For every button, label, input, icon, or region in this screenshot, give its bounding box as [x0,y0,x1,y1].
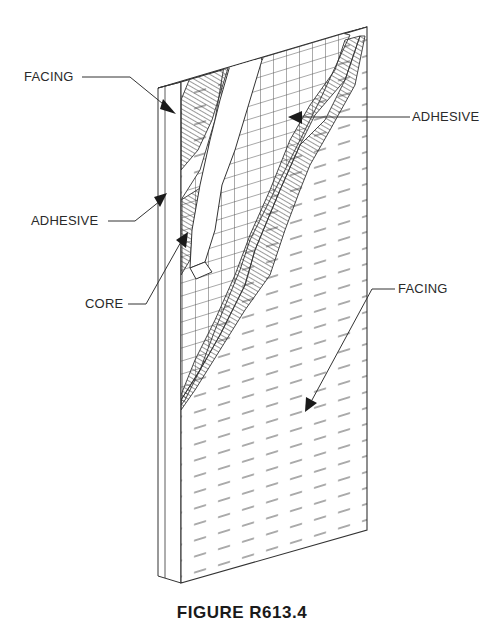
figure-caption: FIGURE R613.4 [0,603,484,622]
label-adhesive-left: ADHESIVE [31,213,98,228]
leader-adhesive-left [108,201,160,221]
label-facing-bottom: FACING [398,281,448,296]
leader-facing-top [82,77,168,108]
label-core: CORE [85,296,123,311]
label-adhesive-right: ADHESIVE [412,109,479,124]
label-facing-top: FACING [24,69,74,84]
